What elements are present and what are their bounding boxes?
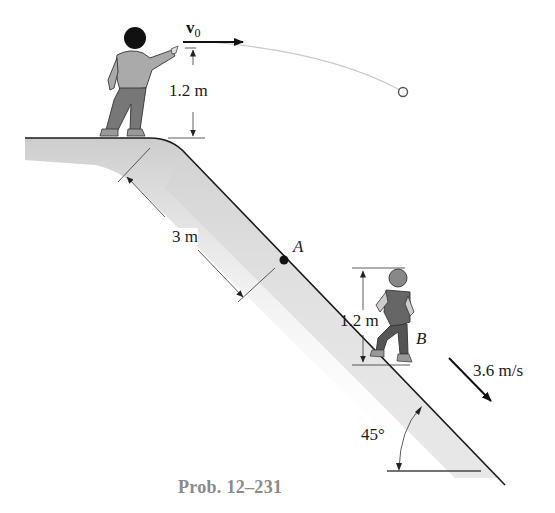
ball-trajectory <box>210 42 400 90</box>
point-a-marker <box>280 256 289 265</box>
ball-icon <box>399 88 408 97</box>
thrower-figure <box>100 27 178 136</box>
slope-angle-label: 45° <box>361 426 385 443</box>
slope-distance-label: 3 m <box>172 228 198 245</box>
thrower-height-label: 1.2 m <box>168 82 209 99</box>
diagram-canvas <box>0 0 555 513</box>
runner-height-label: 1.2 m <box>340 312 379 329</box>
runner-speed-label: 3.6 m/s <box>473 362 523 379</box>
point-a-label: A <box>293 238 303 255</box>
initial-velocity-label: v0 <box>186 18 201 41</box>
ground-shading <box>25 138 500 478</box>
point-b-label: B <box>416 330 426 347</box>
v0-subscript: 0 <box>195 26 201 40</box>
figure-caption: Prob. 12–231 <box>178 477 282 498</box>
v0-symbol: v <box>186 18 195 37</box>
